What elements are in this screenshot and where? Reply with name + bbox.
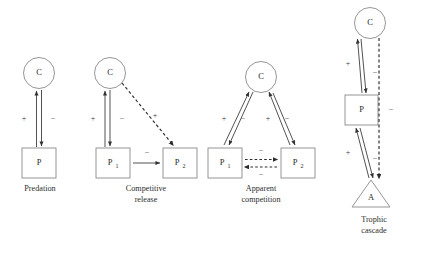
caption-apparent-competition-line1: Apparent <box>246 184 277 193</box>
node-prey1-subscript: 1 <box>116 163 119 169</box>
sign-prey-to-consumer: + <box>22 114 27 123</box>
caption-trophic-cascade-line2: cascade <box>361 226 387 235</box>
sign-prey2-to-consumer: + <box>266 114 271 123</box>
sign-prey-to-consumer: + <box>346 59 351 68</box>
sign-prey1-to-consumer: + <box>222 114 227 123</box>
sign-consumer-to-prey2: − <box>285 114 290 123</box>
node-prey-label: P <box>359 104 364 114</box>
node-prey1-square[interactable] <box>208 148 242 178</box>
node-prey1-square[interactable] <box>96 148 130 178</box>
node-consumer-label: C <box>36 67 42 77</box>
sign-consumer-to-autotroph-indirect: − <box>389 105 394 114</box>
node-prey-label: P <box>37 157 42 167</box>
panel-competitive-release: C P 1 P 2 + − + − Competitive release <box>91 58 197 204</box>
sign-prey1-to-prey2-indirect: − <box>259 146 264 155</box>
caption-competitive-release-line1: Competitive <box>126 184 167 193</box>
panel-apparent-competition: C P 1 P 2 + − + − − − Apparent competiti… <box>208 62 315 204</box>
sign-consumer-to-prey: − <box>51 114 56 123</box>
sign-consumer-to-prey: − <box>373 68 378 77</box>
sign-consumer-to-prey1: − <box>120 114 125 123</box>
ecology-interaction-diagram: C P + − Predation C P 1 P 2 + − + − Comp… <box>0 0 431 256</box>
caption-trophic-cascade-line1: Trophic <box>361 215 387 224</box>
node-autotroph-label: A <box>368 192 375 202</box>
node-consumer-label: C <box>258 71 264 81</box>
panel-trophic-cascade: C P A + − + − − Trophic cascade <box>345 8 394 235</box>
panel-predation: C P + − Predation <box>22 58 56 193</box>
node-prey2-label: P <box>175 157 180 167</box>
sign-consumer-to-prey1: − <box>241 114 246 123</box>
sign-prey1-to-prey2: − <box>145 148 150 157</box>
link-autotroph-to-prey <box>356 128 369 178</box>
sign-prey-to-autotroph: − <box>373 154 378 163</box>
caption-apparent-competition-line2: competition <box>241 195 280 204</box>
node-consumer-label: C <box>367 17 373 27</box>
link-consumer-to-prey2-indirect <box>122 83 173 145</box>
node-prey2-subscript: 2 <box>301 163 304 169</box>
caption-predation: Predation <box>24 184 55 193</box>
sign-prey2-to-prey1-indirect: − <box>259 170 264 179</box>
sign-prey1-to-consumer: + <box>91 114 96 123</box>
link-prey-to-autotroph <box>360 128 373 178</box>
node-consumer-label: C <box>107 67 113 77</box>
node-prey2-square[interactable] <box>281 148 315 178</box>
caption-competitive-release-line2: release <box>135 195 158 204</box>
node-prey1-label: P <box>220 157 225 167</box>
diagram-canvas: C P + − Predation C P 1 P 2 + − + − Comp… <box>0 0 431 256</box>
node-prey1-label: P <box>108 157 113 167</box>
node-prey2-label: P <box>293 157 298 167</box>
node-prey2-square[interactable] <box>163 148 197 178</box>
sign-autotroph-to-prey: + <box>346 148 351 157</box>
node-prey2-subscript: 2 <box>183 163 186 169</box>
sign-consumer-to-prey2-indirect: + <box>153 111 158 120</box>
node-prey1-subscript: 1 <box>228 163 231 169</box>
